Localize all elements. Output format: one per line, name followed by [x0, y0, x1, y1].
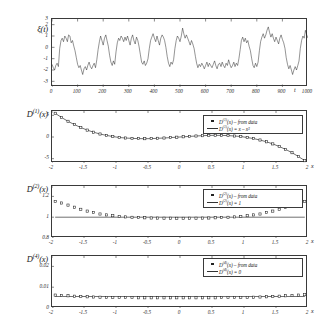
- panel-fourth-order-xtick--0.5: -0.5: [139, 309, 155, 315]
- panel-fourth-order-xtick--2: -2: [43, 309, 59, 315]
- square-marker-icon: [206, 261, 219, 268]
- panel-diffusion-xtick--2: -2: [43, 239, 59, 245]
- panel-drift-xtick--0.5: -0.5: [139, 164, 155, 170]
- panel-fourth-order-legend-label-data: D(4)(x) – from data: [219, 261, 257, 268]
- panel-diffusion-xtick-0.5: 0.5: [203, 239, 219, 245]
- panel-diffusion-legend: D(2)(x) – from data D(2)(x) = 1: [203, 189, 303, 208]
- panel-drift-legend-row-data: D(1)(x) – from data: [206, 118, 299, 125]
- panel-timeseries-ytick-m1: -1: [34, 55, 48, 61]
- panel-fourth-order-xlabel: x: [311, 308, 314, 314]
- panel-diffusion-xtick--0.5: -0.5: [139, 239, 155, 245]
- panel-diffusion-legend-label-data: D(2)(x) – from data: [219, 192, 257, 199]
- panel-timeseries-ytick-0: 0: [34, 44, 48, 50]
- square-marker-icon: [206, 192, 219, 199]
- panel-timeseries-xtick-500: 500: [171, 88, 187, 94]
- panel-timeseries-plotbox: [51, 18, 307, 86]
- panel-fourth-order-legend-label-theory: D(4)(x) = 0: [219, 268, 241, 275]
- panel-drift-legend-label-data: D(1)(x) – from data: [219, 118, 257, 125]
- panel-timeseries-xtick-700: 700: [222, 88, 238, 94]
- line-marker-icon: [206, 199, 219, 206]
- panel-fourth-order-xtick-0: 0: [171, 309, 187, 315]
- panel-drift-legend-label-theory: D(1)(x) = x – x³: [219, 125, 250, 132]
- panel-fourth-order-ytick-0.02: 0.02: [30, 262, 49, 268]
- panel-drift-ytick-0: 0: [37, 133, 49, 139]
- panel-diffusion-xtick--1: -1: [107, 239, 123, 245]
- panel-drift-xlabel: x: [311, 163, 314, 169]
- panel-diffusion-xtick-1.5: 1.5: [267, 239, 283, 245]
- panel-diffusion-xlabel: x: [311, 238, 314, 244]
- panel-fourth-order-legend: D(4)(x) – from data D(4)(x) = 0: [203, 258, 303, 277]
- panel-timeseries-ytick-m2: -2: [34, 66, 48, 72]
- panel-timeseries-ytick-m3: -3: [34, 78, 48, 84]
- panel-diffusion-legend-row-data: D(2)(x) – from data: [206, 192, 299, 199]
- panel-diffusion-legend-label-theory: D(2)(x) = 1: [219, 199, 241, 206]
- panel-drift-ytick-5: 5: [37, 111, 49, 117]
- panel-timeseries-xtick-400: 400: [145, 88, 161, 94]
- panel-fourth-order-legend-row-data: D(4)(x) – from data: [206, 261, 299, 268]
- panel-drift-xtick-0: 0: [171, 164, 187, 170]
- panel-fourth-order-legend-row-theory: D(4)(x) = 0: [206, 268, 299, 275]
- panel-fourth-order-xtick--1: -1: [107, 309, 123, 315]
- panel-timeseries-xtick-100: 100: [69, 88, 85, 94]
- panel-timeseries-xtick-600: 600: [197, 88, 213, 94]
- panel-timeseries-xtick-800: 800: [248, 88, 264, 94]
- panel-fourth-order-ytick-0.01: 0.01: [30, 283, 49, 289]
- timeseries-trace: [52, 27, 308, 75]
- panel-drift-xtick--2: -2: [43, 164, 59, 170]
- panel-drift-xtick--1: -1: [107, 164, 123, 170]
- panel-drift-legend-row-theory: D(1)(x) = x – x³: [206, 125, 299, 132]
- panel-diffusion-xtick-1: 1: [235, 239, 251, 245]
- panel-timeseries-ytick-1: 1: [34, 32, 48, 38]
- figure-root: ξ(t): [0, 0, 322, 330]
- line-marker-icon: [206, 268, 219, 275]
- panel-timeseries-xtick-300: 300: [120, 88, 136, 94]
- panel-timeseries-ytick-2: 2: [34, 21, 48, 27]
- panel-drift-ytick-m5: -5: [37, 154, 49, 160]
- panel-fourth-order-xtick-1: 1: [235, 309, 251, 315]
- panel-timeseries-xlabel: t: [294, 87, 296, 93]
- panel-drift-xtick-1: 1: [235, 164, 251, 170]
- panel-timeseries-xtick-0: 0: [43, 88, 59, 94]
- panel-diffusion-xtick--1.5: -1.5: [75, 239, 91, 245]
- panel-timeseries-tickmarks: [52, 19, 282, 87]
- panel-timeseries-xtick-900: 900: [273, 88, 289, 94]
- panel-fourth-order-xtick--1.5: -1.5: [75, 309, 91, 315]
- panel-timeseries-xtick-200: 200: [94, 88, 110, 94]
- panel-drift-xtick--1.5: -1.5: [75, 164, 91, 170]
- panel-timeseries-xtick-1000: 1000: [299, 88, 315, 94]
- panel-diffusion-ytick-1: 1: [33, 213, 49, 219]
- line-marker-icon: [206, 125, 219, 132]
- panel-timeseries-canvas: [52, 19, 308, 87]
- panel-diffusion-xtick-0: 0: [171, 239, 187, 245]
- panel-drift-xtick-0.5: 0.5: [203, 164, 219, 170]
- panel-fourth-order-xtick-0.5: 0.5: [203, 309, 219, 315]
- panel-drift-xtick-1.5: 1.5: [267, 164, 283, 170]
- panel-diffusion-ytick-1.2: 1.2: [33, 192, 49, 198]
- panel-fourth-order-xtick-1.5: 1.5: [267, 309, 283, 315]
- panel-diffusion-legend-row-theory: D(2)(x) = 1: [206, 199, 299, 206]
- square-marker-icon: [206, 118, 219, 125]
- panel-drift-legend: D(1)(x) – from data D(1)(x) = x – x³: [203, 115, 303, 134]
